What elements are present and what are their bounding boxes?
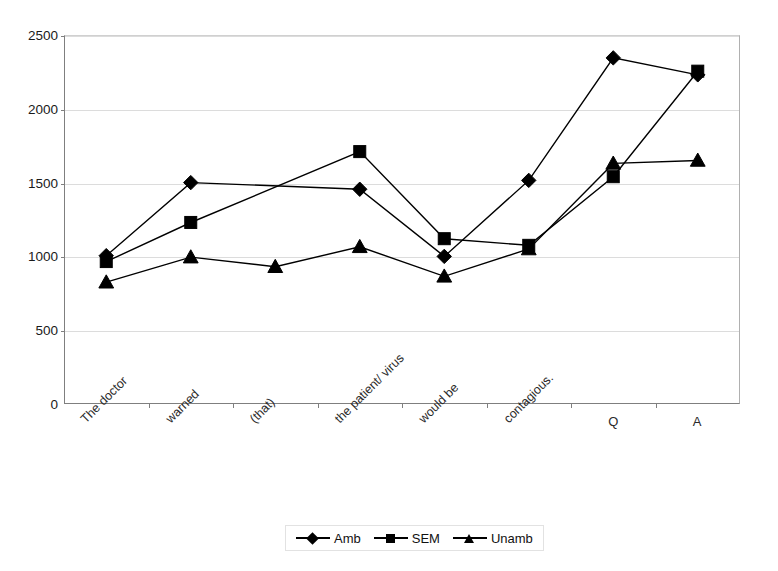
data-point-triangle bbox=[99, 275, 114, 288]
legend-entry-sem[interactable]: SEM bbox=[374, 531, 440, 546]
data-point-triangle bbox=[690, 153, 705, 166]
data-point-triangle bbox=[352, 239, 367, 252]
data-point-square bbox=[185, 216, 197, 228]
data-point-triangle bbox=[437, 269, 452, 282]
legend-marker-diamond-icon bbox=[296, 531, 330, 545]
legend-marker-square-icon bbox=[374, 531, 408, 545]
series-layer bbox=[0, 0, 778, 571]
legend-label: Amb bbox=[334, 531, 361, 546]
data-point-square bbox=[438, 233, 450, 245]
legend-entry-amb[interactable]: Amb bbox=[296, 531, 361, 546]
legend-marker-triangle-icon bbox=[453, 531, 487, 545]
data-point-triangle bbox=[183, 250, 198, 263]
data-point-square bbox=[607, 171, 619, 183]
legend-label: SEM bbox=[412, 531, 440, 546]
legend-label: Unamb bbox=[491, 531, 533, 546]
legend-entry-unamb[interactable]: Unamb bbox=[453, 531, 533, 546]
line-chart: 05001000150020002500 The doctorwarned(th… bbox=[0, 0, 778, 571]
data-point-square bbox=[100, 256, 112, 268]
chart-legend: AmbSEMUnamb bbox=[285, 525, 544, 551]
data-point-diamond bbox=[353, 182, 367, 196]
data-point-square bbox=[354, 146, 366, 158]
data-point-diamond bbox=[606, 51, 620, 65]
data-point-square bbox=[692, 65, 704, 77]
